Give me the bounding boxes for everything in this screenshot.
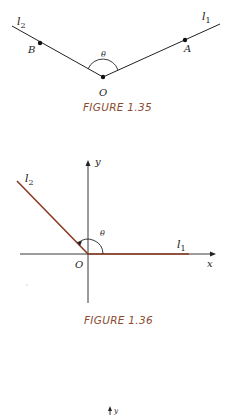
label-b: B — [27, 44, 35, 55]
label-y: y — [94, 156, 101, 167]
label-l1: l1 — [202, 10, 211, 25]
figure-1-36: y x O θ l2 l1 FIGURE 1.36 — [17, 156, 216, 326]
label-l1: l1 — [177, 238, 186, 253]
label-theta: θ — [101, 50, 106, 59]
y-axis-arrow-icon — [86, 160, 91, 166]
figure-1-35: l2 l1 B A O θ FIGURE 1.35 — [12, 10, 220, 113]
label-x: x — [207, 258, 213, 269]
angle-arc — [88, 59, 118, 70]
line-l1 — [103, 24, 220, 77]
figure-partial: y — [108, 406, 119, 415]
label-theta: θ — [100, 229, 105, 238]
point-a — [183, 38, 187, 42]
label-a: A — [183, 43, 191, 54]
caption-figure-1-35: FIGURE 1.35 — [83, 101, 152, 113]
point-o — [101, 75, 105, 79]
y-axis-arrow-icon — [108, 406, 112, 411]
label-l2: l2 — [25, 172, 34, 187]
x-axis-arrow-icon — [210, 252, 216, 257]
label-o: O — [99, 87, 107, 98]
point-b — [38, 41, 42, 45]
caption-figure-1-36: FIGURE 1.36 — [84, 314, 153, 326]
label-l2: l2 — [17, 15, 26, 30]
label-o: O — [75, 259, 83, 270]
line-l2 — [17, 181, 88, 254]
figure-canvas: l2 l1 B A O θ FIGURE 1.35 y x O θ l2 l1 … — [0, 0, 227, 415]
speck — [26, 284, 27, 285]
line-l2 — [12, 26, 103, 77]
label-y: y — [113, 407, 119, 415]
